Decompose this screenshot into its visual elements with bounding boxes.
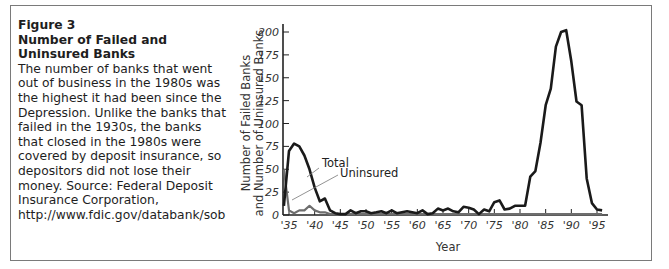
x-axis-title: Year <box>435 240 461 254</box>
x-tick-label: '70 <box>460 219 477 232</box>
x-tick-label: '85 <box>537 219 554 232</box>
x-tick-label: '90 <box>563 219 580 232</box>
y-tick-label: 50 <box>265 163 279 176</box>
series-lines <box>284 30 602 214</box>
x-tick-label: '40 <box>306 219 323 232</box>
y-tick-label: 25 <box>265 186 279 199</box>
x-tick-label: '80 <box>511 219 528 232</box>
x-tick-label: '95 <box>588 219 605 232</box>
y-tick-label: 75 <box>265 140 279 153</box>
y-axis-title-line2: and Number of Uninsured Banks <box>252 30 266 217</box>
x-tick-label: '75 <box>486 219 503 232</box>
series-uninsured <box>284 169 602 214</box>
x-axis: '35'40'45'50'55'60'65'70'75'80'85'90'95 <box>280 209 608 232</box>
x-tick-label: '60 <box>409 219 426 232</box>
y-axis-title-line1: Number of Failed Banks <box>239 55 253 192</box>
uninsured-label: Uninsured <box>340 166 398 180</box>
uninsured-leader-line <box>292 175 338 200</box>
line-chart: 0255075100125150175200 '35'40'45'50'55'6… <box>0 0 669 269</box>
x-tick-label: '45 <box>332 219 349 232</box>
x-tick-label: '65 <box>434 219 451 232</box>
series-total <box>284 30 602 214</box>
x-tick-label: '55 <box>383 219 400 232</box>
x-tick-label: '35 <box>280 219 297 232</box>
x-tick-label: '50 <box>357 219 374 232</box>
y-tick-label: 0 <box>272 209 279 222</box>
